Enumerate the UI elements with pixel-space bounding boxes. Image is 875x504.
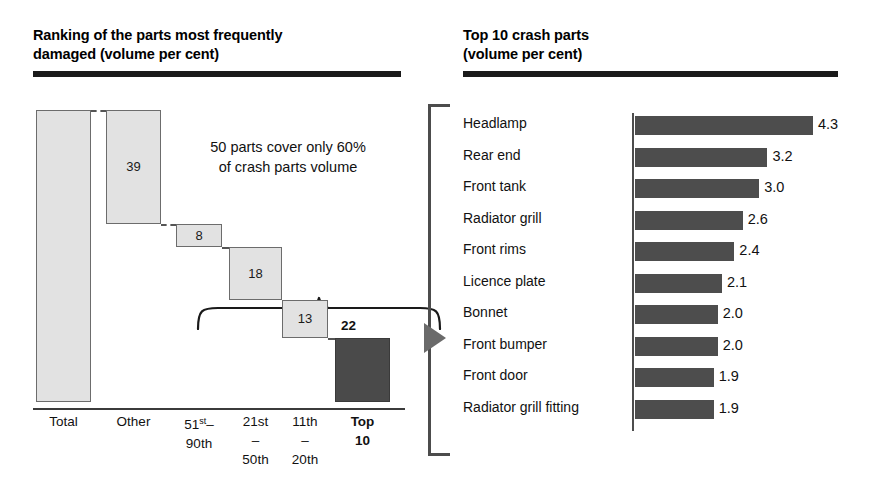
top10-category-label: Headlamp: [463, 115, 627, 131]
top10-bar-value: 1.9: [719, 400, 739, 416]
waterfall-connector: [161, 224, 176, 226]
top10-bar-value: 2.1: [727, 274, 747, 290]
waterfall-baseline: [33, 408, 405, 410]
waterfall-bar: [335, 338, 390, 402]
top10-bar: [635, 400, 714, 419]
waterfall-bar-value: 39: [126, 159, 140, 174]
top10-category-label: Front door: [463, 367, 627, 383]
top10-bar: [635, 242, 734, 261]
top10-category-label: Rear end: [463, 147, 627, 163]
top10-category-label: Radiator grill fitting: [463, 399, 627, 415]
waterfall-callout: 50 parts cover only 60% of crash parts v…: [168, 137, 408, 177]
top10-axis-line: [632, 113, 634, 431]
waterfall-connector: [91, 110, 106, 112]
waterfall-bar-value: 13: [298, 311, 312, 326]
waterfall-bar: 8: [176, 224, 222, 247]
top10-category-label: Licence plate: [463, 273, 627, 289]
top10-category-label: Radiator grill: [463, 210, 627, 226]
top10-bar: [635, 211, 743, 230]
top10-bar: [635, 337, 718, 356]
top10-bar: [635, 274, 722, 293]
top10-bar: [635, 148, 767, 167]
top10-bar-value: 3.0: [764, 179, 784, 195]
right-panel-title: Top 10 crash parts (volume per cent): [463, 26, 589, 64]
top10-category-label: Front tank: [463, 178, 627, 194]
waterfall-axis-label: Other: [97, 412, 170, 431]
waterfall-bar-value: 8: [195, 228, 202, 243]
top10-bar-value: 4.3: [818, 116, 838, 132]
top10-category-label: Front rims: [463, 241, 627, 257]
right-title-rule: [463, 71, 838, 77]
left-panel: Ranking of the parts most frequently dam…: [0, 0, 440, 504]
waterfall-connector: [328, 338, 335, 340]
waterfall-axis-label: Top 10: [326, 412, 399, 450]
waterfall-bar: 18: [229, 247, 282, 300]
waterfall-bar: 39: [106, 110, 161, 224]
top10-bar-chart: Headlamp4.3Rear end3.2Front tank3.0Radia…: [463, 113, 863, 435]
top10-bar-value: 2.4: [739, 242, 759, 258]
top10-bar-value: 2.0: [723, 337, 743, 353]
left-title-rule: [33, 71, 401, 77]
left-panel-title: Ranking of the parts most frequently dam…: [33, 26, 282, 64]
waterfall-axis-label: Total: [27, 412, 100, 431]
top10-bar-value: 3.2: [772, 148, 792, 164]
waterfall-bar-value: 22: [341, 318, 356, 333]
top10-bar: [635, 368, 714, 387]
top10-bar: [635, 305, 718, 324]
waterfall-bar: 13: [282, 300, 328, 338]
top10-category-label: Front bumper: [463, 336, 627, 352]
top10-bar-value: 2.6: [748, 211, 768, 227]
waterfall-bar: [36, 110, 91, 402]
waterfall-bar-value: 18: [248, 266, 262, 281]
top10-bar: [635, 179, 759, 198]
waterfall-axis-labels: TotalOther51st–90th21st – 50th11th – 20t…: [33, 412, 418, 492]
top10-bar-value: 1.9: [719, 368, 739, 384]
top10-category-label: Bonnet: [463, 304, 627, 320]
top10-bar-value: 2.0: [723, 305, 743, 321]
waterfall-connector: [222, 247, 229, 249]
top10-bar: [635, 116, 813, 135]
